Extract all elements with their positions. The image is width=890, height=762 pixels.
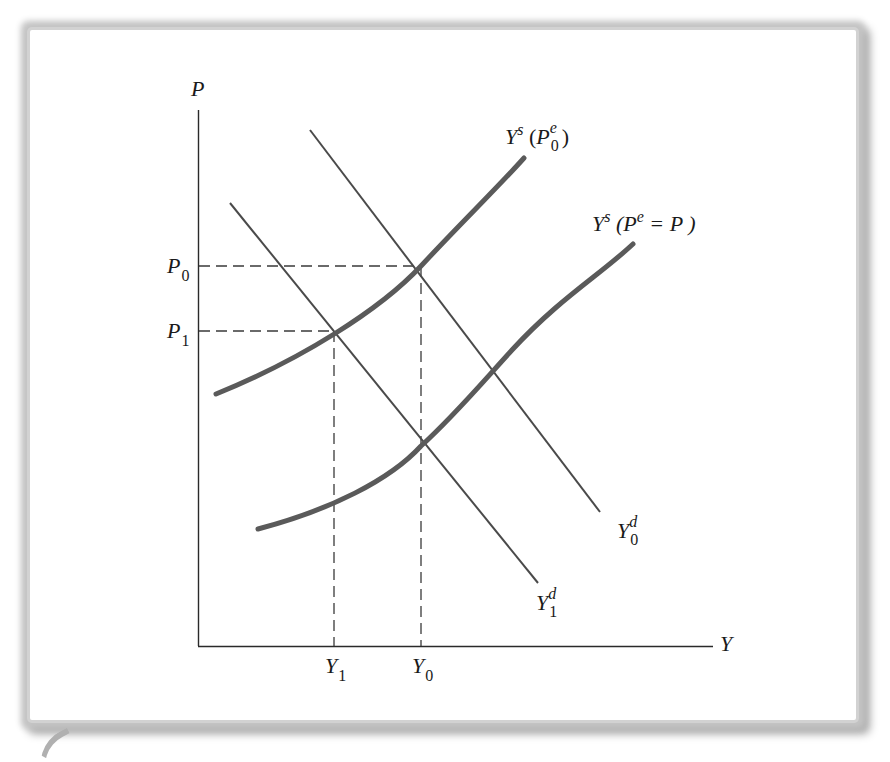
y-axis-label: P	[191, 78, 204, 100]
y0-label: Y0	[412, 655, 433, 677]
supply-curve-adjusted	[258, 244, 633, 529]
p1-label: P1	[167, 320, 189, 342]
x-axis-label: Y	[720, 633, 732, 655]
demand-0-label: Yd0	[617, 520, 641, 542]
p0-label: P0	[167, 255, 189, 277]
supply-curve-expected	[216, 158, 524, 394]
demand-1-label: Yd1	[536, 592, 560, 614]
supply-expected-label: Ys (Pe0)	[505, 126, 569, 148]
y1-label: Y1	[325, 655, 346, 677]
supply-adjusted-label: Ys (Pe = P )	[592, 213, 696, 235]
